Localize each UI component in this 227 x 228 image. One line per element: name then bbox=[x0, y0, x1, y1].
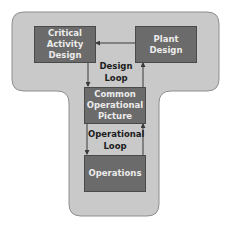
design-loop-label: Design Loop bbox=[99, 60, 133, 84]
t-diagram: Critical Activity Design Plant Design Co… bbox=[0, 0, 227, 228]
node-plant-design: Plant Design bbox=[135, 26, 197, 63]
node-operations: Operations bbox=[84, 155, 146, 192]
node-label: Operations bbox=[89, 168, 142, 179]
node-label: Common Operational Picture bbox=[87, 89, 144, 122]
node-label: Plant Design bbox=[136, 34, 196, 56]
node-critical-activity-design: Critical Activity Design bbox=[34, 26, 96, 63]
operational-loop-label: Operational Loop bbox=[88, 128, 142, 152]
node-common-operational-picture: Common Operational Picture bbox=[84, 87, 146, 124]
node-label: Critical Activity Design bbox=[35, 28, 95, 61]
